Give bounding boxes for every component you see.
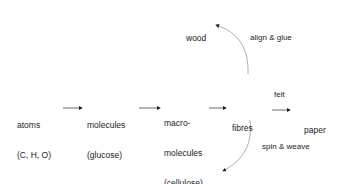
node-molecules: molecules (glucose): [87, 100, 125, 170]
node-wood: wood: [186, 13, 206, 53]
node-macromolecules-line1: macro-: [164, 118, 203, 128]
node-macromolecules-line2: molecules: [164, 148, 203, 158]
node-paper: paper: [304, 105, 326, 145]
node-atoms-line2: (C, H, O): [17, 150, 51, 160]
arrow-fibres-to-wood: [216, 25, 248, 74]
edge-label-spin-weave: spin & weave: [262, 142, 310, 152]
node-atoms-line1: atoms: [17, 120, 51, 130]
edge-label-align-glue: align & glue: [250, 33, 292, 43]
node-molecules-line1: molecules: [87, 120, 125, 130]
node-fibres-line1: fibres: [232, 123, 253, 133]
node-fabric: fabric: [193, 167, 214, 184]
node-paper-line1: paper: [304, 125, 326, 135]
edge-label-felt: felt: [274, 90, 285, 100]
node-atoms: atoms (C, H, O): [17, 100, 51, 170]
node-molecules-line2: (glucose): [87, 150, 125, 160]
node-fibres: fibres: [232, 103, 253, 143]
node-wood-line1: wood: [186, 33, 206, 43]
